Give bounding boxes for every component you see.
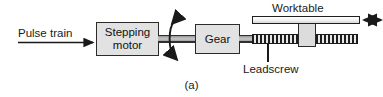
figure-caption: (a) [0,79,383,91]
stepping-motor-block: Stepping motor [96,22,159,56]
gear-block: Gear [195,24,240,54]
leadscrew-thread-right [316,34,358,44]
gear-label: Gear [205,33,231,46]
figure-stepping-motor-drive: Pulse train Stepping motor Gear Worktabl… [0,0,383,97]
leadscrew-nut-block [298,22,316,47]
worktable-label: Worktable [272,2,324,14]
stepping-motor-label-line1: Stepping [105,26,150,38]
worktable-bar [252,16,360,24]
motor-output-shaft [158,35,196,43]
leadscrew-label: Leadscrew [243,63,299,75]
leadscrew-leader-line-icon [267,44,269,62]
leadscrew-thread-left [252,34,298,44]
gear-output-shaft [239,35,253,43]
stepping-motor-label-line2: motor [113,39,142,51]
pulse-train-label: Pulse train [18,27,72,39]
